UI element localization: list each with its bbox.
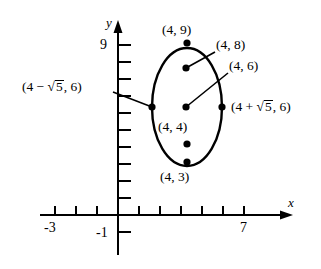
point-center: [182, 103, 189, 110]
x-axis-label: x: [288, 196, 294, 209]
y-axis-label: y: [106, 16, 112, 29]
radical-sign-right: √5: [257, 100, 273, 114]
point-label-center: (4, 6): [229, 59, 258, 73]
x-axis-ticks: [55, 206, 244, 215]
point-focus-upper: [182, 64, 189, 71]
point-label-right-covertex: (4 + √5, 6): [231, 100, 291, 114]
x-axis-arrowhead: [280, 211, 293, 220]
point-label-top-vertex: (4, 9): [162, 23, 191, 37]
radical-sign-left: √5: [48, 80, 64, 94]
point-left-covertex: [148, 103, 155, 110]
y-tick-label-9: 9: [100, 38, 107, 52]
point-label-bottom-vertex: (4, 3): [160, 170, 189, 184]
right-covertex-prefix: (4 +: [231, 99, 257, 114]
right-covertex-suffix: , 6): [273, 99, 291, 114]
left-covertex-radicand: 5: [56, 79, 63, 94]
y-axis-ticks: [118, 45, 131, 232]
point-bottom-vertex: [183, 158, 190, 165]
right-covertex-radicand: 5: [265, 99, 272, 114]
point-focus-lower: [183, 140, 190, 147]
left-covertex-suffix: , 6): [64, 79, 82, 94]
point-right-covertex: [218, 103, 225, 110]
origin-neg1-label: -1: [96, 226, 108, 240]
point-label-focus-lower: (4, 4): [158, 120, 187, 134]
point-label-left-covertex: (4 − √5, 6): [22, 80, 82, 94]
x-tick-label-7: 7: [240, 221, 247, 235]
point-label-focus-upper: (4, 8): [216, 38, 245, 52]
ellipse-diagram: y x 9 -3 7 -1 (4, 9) (4, 8) (4, 6) (4, 4…: [0, 0, 321, 269]
point-top-vertex: [183, 39, 190, 46]
left-covertex-prefix: (4 −: [22, 79, 48, 94]
y-axis-arrowhead: [114, 20, 123, 33]
x-tick-label-neg3: -3: [44, 221, 56, 235]
